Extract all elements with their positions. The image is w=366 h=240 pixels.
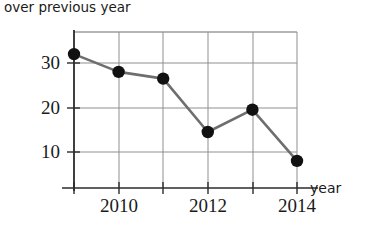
x-axis-title: year [310, 180, 341, 196]
data-point [157, 72, 169, 84]
data-point [68, 48, 80, 60]
data-point [112, 66, 124, 78]
x-tick-label-2012: 2012 [178, 196, 238, 216]
y-tick-label-10: 10 [16, 142, 60, 161]
horizontal-gridlines [74, 32, 297, 152]
y-tick-label-20: 20 [16, 98, 60, 117]
vertical-gridlines [119, 32, 297, 188]
line-chart: 30 20 10 2010 2012 2014 year [0, 0, 366, 240]
data-point [246, 104, 258, 116]
x-tick-label-2014: 2014 [267, 196, 327, 216]
x-tick-label-2010: 2010 [89, 196, 149, 216]
y-tick-label-30: 30 [16, 53, 60, 72]
data-point [291, 155, 303, 167]
data-point [202, 126, 214, 138]
